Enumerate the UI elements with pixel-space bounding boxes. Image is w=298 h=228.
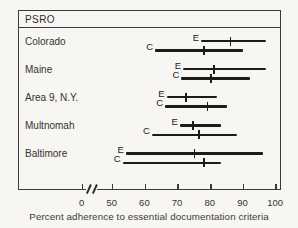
chart-figure: PSRO ColoradoECMaineECArea 9, N.Y.ECMult… bbox=[0, 0, 298, 228]
range-bar-C bbox=[123, 162, 221, 165]
series-C-label: C bbox=[142, 42, 153, 52]
mean-tick-C bbox=[203, 158, 205, 167]
range-bar-E bbox=[167, 96, 218, 99]
category-label: Baltimore bbox=[25, 148, 67, 159]
mean-tick-E bbox=[230, 37, 232, 46]
category-label: Colorado bbox=[25, 36, 66, 47]
x-axis-tick bbox=[275, 184, 277, 189]
series-C-label: C bbox=[152, 98, 163, 108]
mean-tick-C bbox=[198, 130, 200, 139]
series-C-label: C bbox=[168, 70, 179, 80]
mean-tick-C bbox=[203, 46, 205, 55]
mean-tick-E bbox=[192, 121, 194, 130]
category-label: Maine bbox=[25, 64, 52, 75]
range-bar-E bbox=[180, 124, 221, 127]
range-bar-E bbox=[201, 40, 266, 43]
mean-tick-C bbox=[210, 74, 212, 83]
mean-tick-E bbox=[185, 93, 187, 102]
series-E-label: E bbox=[167, 117, 178, 127]
x-axis-tick bbox=[82, 184, 84, 189]
mean-tick-E bbox=[194, 149, 196, 158]
mean-tick-E bbox=[213, 65, 215, 74]
range-bar-E bbox=[183, 68, 266, 71]
x-axis-tick-label: 50 bbox=[97, 197, 127, 208]
x-axis-tick-label: 100 bbox=[260, 197, 290, 208]
x-axis-tick-label: 90 bbox=[228, 197, 258, 208]
x-axis-tick-label: 70 bbox=[162, 197, 192, 208]
plot-canvas: ColoradoECMaineECArea 9, N.Y.ECMultnomah… bbox=[19, 11, 280, 189]
x-axis-tick bbox=[210, 184, 212, 189]
x-axis-tick-label: 80 bbox=[195, 197, 225, 208]
category-label: Multnomah bbox=[25, 120, 74, 131]
x-axis-tick bbox=[243, 184, 245, 189]
series-C-label: C bbox=[110, 154, 121, 164]
range-bar-C bbox=[152, 134, 237, 137]
x-axis-tick bbox=[145, 184, 147, 189]
series-E-label: E bbox=[188, 33, 199, 43]
category-label: Area 9, N.Y. bbox=[25, 92, 78, 103]
series-C-label: C bbox=[139, 126, 150, 136]
x-axis-tick-label: 60 bbox=[129, 197, 159, 208]
range-bar-C bbox=[181, 77, 250, 80]
mean-tick-C bbox=[207, 102, 209, 111]
plot-area: PSRO ColoradoECMaineECArea 9, N.Y.ECMult… bbox=[18, 10, 281, 190]
range-bar-C bbox=[165, 105, 227, 108]
x-axis-tick bbox=[177, 184, 179, 189]
range-bar-C bbox=[155, 49, 243, 52]
x-axis-tick bbox=[112, 184, 114, 189]
x-axis-title: Percent adherence to essential documenta… bbox=[0, 211, 298, 222]
x-axis-tick-label: 0 bbox=[67, 197, 97, 208]
